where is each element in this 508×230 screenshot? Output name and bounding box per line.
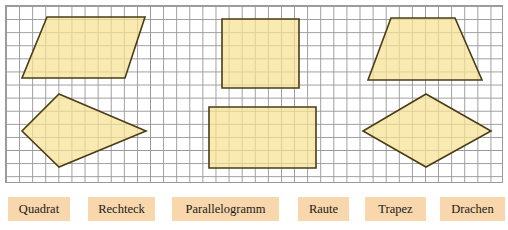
label-chip-raute[interactable]: Raute: [298, 197, 349, 221]
grid-canvas[interactable]: [5, 5, 503, 183]
label-chip-rechteck[interactable]: Rechteck: [88, 197, 155, 221]
label-bar: Quadrat Rechteck Parallelogramm Raute Tr…: [0, 192, 508, 230]
label-chip-trapez[interactable]: Trapez: [365, 197, 426, 221]
label-chip-quadrat[interactable]: Quadrat: [8, 197, 70, 221]
worksheet-page: Quadrat Rechteck Parallelogramm Raute Tr…: [0, 0, 508, 230]
label-chip-parallelogramm[interactable]: Parallelogramm: [172, 197, 279, 221]
label-chip-drachen[interactable]: Drachen: [440, 197, 505, 221]
